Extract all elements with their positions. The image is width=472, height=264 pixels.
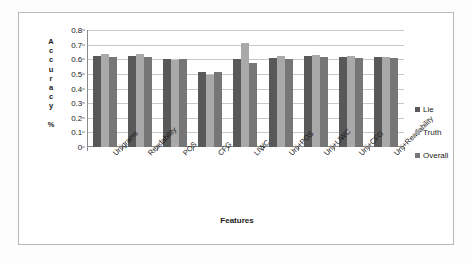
- bar: [390, 58, 398, 148]
- legend-swatch-icon: [415, 107, 420, 112]
- bar-group: [228, 30, 263, 147]
- bar: [179, 59, 187, 147]
- bar-group: [122, 30, 157, 147]
- y-axis-tick-mark: [82, 30, 85, 31]
- x-axis-category-label: CFG: [216, 151, 222, 157]
- bar: [214, 72, 222, 147]
- bar-group: [298, 30, 333, 147]
- bar: [277, 56, 285, 147]
- bar: [101, 54, 109, 147]
- y-axis-tick-label: 0.3: [71, 99, 82, 108]
- legend-label: Overall: [423, 151, 448, 160]
- chart-legend: LieTruthOverall: [415, 105, 472, 174]
- x-axis-category-label: Readability: [146, 151, 152, 157]
- legend-label: Lie: [423, 105, 434, 114]
- bar: [144, 57, 152, 147]
- y-axis-tick-label: 0.6: [71, 55, 82, 64]
- bar: [249, 63, 257, 147]
- bar: [109, 57, 117, 147]
- bar: [206, 75, 214, 147]
- bar: [320, 57, 328, 147]
- bar-group: [193, 30, 228, 147]
- x-axis-category-labels: UnigramsReadabilityPOSCFGLIWCUni+POSUni+…: [87, 151, 404, 213]
- x-axis-category-label: Uni+CFG: [357, 151, 363, 157]
- y-axis-title: Accuracy %: [45, 37, 57, 129]
- x-axis-title: Features: [19, 216, 455, 225]
- y-axis-title-letter: %: [45, 120, 57, 129]
- bar: [355, 58, 363, 148]
- y-axis-title-letter: c: [45, 46, 57, 55]
- x-axis-category-label: Uni+Readability: [392, 151, 398, 157]
- legend-item: Lie: [415, 105, 472, 114]
- y-axis-tick-label: 0.8: [71, 26, 82, 35]
- bar: [93, 56, 101, 147]
- legend-label: Truth: [423, 128, 441, 137]
- bar: [233, 59, 241, 147]
- y-axis-tick-label: 0.5: [71, 69, 82, 78]
- bar-group: [263, 30, 298, 147]
- legend-item: Overall: [415, 151, 472, 160]
- x-axis-category-label: POS: [181, 151, 187, 157]
- legend-swatch-icon: [415, 130, 420, 135]
- bar: [198, 72, 206, 147]
- y-axis-title-letter: u: [45, 65, 57, 74]
- scanned-page: Accuracy % 0.80.70.60.50.40.30.20.10 Uni…: [0, 0, 472, 264]
- y-axis-tick-mark: [82, 147, 85, 148]
- x-axis-category-label: Uni+POS: [287, 151, 293, 157]
- y-axis-tick-mark: [82, 88, 85, 89]
- y-axis-title-letter: a: [45, 83, 57, 92]
- bar: [241, 43, 249, 147]
- x-axis-category-label: Unigrams: [111, 151, 117, 157]
- y-axis-tick-label: 0.7: [71, 40, 82, 49]
- bar: [269, 58, 277, 147]
- legend-swatch-icon: [415, 153, 420, 158]
- bar: [285, 59, 293, 147]
- y-axis-tick-label: 0.2: [71, 113, 82, 122]
- y-axis-tick-mark: [82, 73, 85, 74]
- x-axis-category-label: LIWC: [252, 151, 258, 157]
- chart-frame: Accuracy % 0.80.70.60.50.40.30.20.10 Uni…: [18, 12, 454, 245]
- x-axis-category-label: Uni+LIWC: [322, 151, 328, 157]
- y-axis-title-letter: A: [45, 37, 57, 46]
- bar-group: [369, 30, 404, 147]
- y-axis-tick-mark: [82, 59, 85, 60]
- bar-group: [334, 30, 369, 147]
- y-axis-title-letter: c: [45, 55, 57, 64]
- y-axis-title-letter: [45, 111, 57, 120]
- y-axis-title-letter: y: [45, 101, 57, 110]
- y-axis-tick-mark: [82, 44, 85, 45]
- y-axis-title-letter: c: [45, 92, 57, 101]
- y-axis-title-letter: r: [45, 74, 57, 83]
- y-axis-tick-label: 0.1: [71, 128, 82, 137]
- y-axis-tick-label: 0.4: [71, 84, 82, 93]
- y-axis-tick-mark: [82, 132, 85, 133]
- y-axis-tick-mark: [82, 103, 85, 104]
- bar-group: [87, 30, 122, 147]
- y-axis-tick-labels: 0.80.70.60.50.40.30.20.10: [59, 30, 85, 147]
- legend-item: Truth: [415, 128, 472, 137]
- y-axis-tick-mark: [82, 117, 85, 118]
